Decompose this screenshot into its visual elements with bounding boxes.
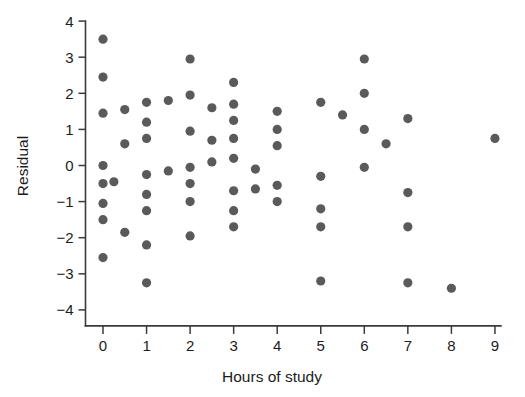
data-point [98, 161, 107, 170]
data-point [142, 278, 151, 287]
data-point [403, 222, 412, 231]
data-point [360, 163, 369, 172]
data-point [273, 197, 282, 206]
data-point [142, 170, 151, 179]
data-point [273, 125, 282, 134]
y-tick-label: −1 [56, 193, 73, 210]
data-point [229, 100, 238, 109]
y-tick-label: 1 [65, 121, 73, 138]
data-point [98, 179, 107, 188]
data-point [207, 103, 216, 112]
data-point [229, 116, 238, 125]
data-point [251, 184, 260, 193]
y-tick-label: 2 [65, 85, 73, 102]
data-point [229, 222, 238, 231]
data-point [316, 276, 325, 285]
data-point [316, 98, 325, 107]
data-point [186, 179, 195, 188]
x-tick-label: 2 [186, 337, 194, 354]
data-point [273, 141, 282, 150]
data-point [186, 163, 195, 172]
x-tick-label: 3 [229, 337, 237, 354]
scatter-plot-canvas: 43210−1−2−3−40123456789 Hours of study R… [0, 0, 525, 397]
x-tick-label: 0 [99, 337, 107, 354]
data-point [142, 206, 151, 215]
data-point [186, 231, 195, 240]
data-point [316, 172, 325, 181]
y-axis-title: Residual [14, 136, 31, 196]
data-point [381, 139, 390, 148]
data-point [316, 222, 325, 231]
data-point [120, 139, 129, 148]
x-tick-label: 8 [447, 337, 455, 354]
data-point [251, 165, 260, 174]
y-tick-label: −4 [56, 301, 73, 318]
data-point [164, 166, 173, 175]
data-point [360, 89, 369, 98]
data-point [120, 105, 129, 114]
residual-scatter-figure: 43210−1−2−3−40123456789 Hours of study R… [0, 0, 525, 397]
ticks-group [79, 21, 495, 334]
data-point [186, 197, 195, 206]
data-point [98, 72, 107, 81]
data-point [447, 284, 456, 293]
x-axis-title: Hours of study [222, 368, 322, 385]
x-tick-label: 6 [360, 337, 368, 354]
x-tick-label: 4 [273, 337, 281, 354]
data-point [142, 98, 151, 107]
data-point [98, 199, 107, 208]
data-point [229, 186, 238, 195]
data-point [490, 134, 499, 143]
y-tick-label: 0 [65, 157, 73, 174]
data-point [98, 215, 107, 224]
data-point [360, 125, 369, 134]
data-point [207, 136, 216, 145]
data-point [186, 127, 195, 136]
data-point [403, 114, 412, 123]
data-point [98, 35, 107, 44]
data-point [164, 96, 173, 105]
data-point [316, 204, 325, 213]
y-tick-label: 3 [65, 49, 73, 66]
data-point [273, 107, 282, 116]
data-point [186, 54, 195, 63]
data-point [229, 134, 238, 143]
data-point [229, 206, 238, 215]
data-point [98, 109, 107, 118]
data-point [360, 54, 369, 63]
data-point [229, 154, 238, 163]
x-tick-label: 1 [142, 337, 150, 354]
data-point [338, 110, 347, 119]
data-point [273, 181, 282, 190]
data-point [142, 118, 151, 127]
data-point [229, 78, 238, 87]
x-tick-label: 7 [404, 337, 412, 354]
data-point [142, 240, 151, 249]
data-point [186, 91, 195, 100]
x-tick-label: 9 [491, 337, 499, 354]
data-point [403, 278, 412, 287]
data-point [142, 134, 151, 143]
data-point [109, 177, 118, 186]
data-point [403, 188, 412, 197]
y-tick-label: −2 [56, 229, 73, 246]
y-tick-label: −3 [56, 265, 73, 282]
data-point [120, 228, 129, 237]
data-point [142, 190, 151, 199]
x-tick-label: 5 [317, 337, 325, 354]
y-tick-label: 4 [65, 13, 73, 30]
data-point [98, 253, 107, 262]
data-points-group [98, 35, 499, 293]
data-point [207, 157, 216, 166]
